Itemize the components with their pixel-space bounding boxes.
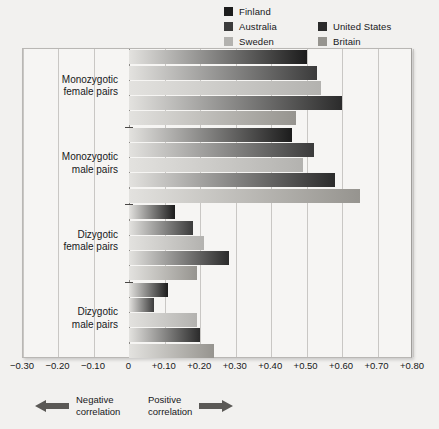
bar-sweden-group-1 [129,81,320,95]
legend-column-2: United States Britain [318,19,391,49]
category-line1: Monozygotic [62,151,118,162]
legend-swatch-australia [224,22,233,31]
category-line2: male pairs [72,319,118,330]
arrow-right-icon [199,400,233,412]
legend-label-sweden: Sweden [239,37,274,47]
legend-item-united-states: United States [318,19,391,34]
arrow-left-icon [35,400,69,412]
bar-britain-group-3 [129,266,196,280]
bar-united-states-group-4 [129,328,200,342]
bar-britain-group-4 [129,344,214,358]
gridline-0.30 [23,49,24,357]
legend-item-sweden: Sweden [224,34,277,49]
positive-correlation-text: Positive correlation [148,394,192,417]
chart-legend: Finland Australia Sweden United States B… [224,4,434,48]
bar-australia-group-1 [129,66,317,80]
x-tick-0: 0 [126,360,131,372]
group-separator-tick-2 [125,204,133,205]
category-line1: Dizygotic [77,229,118,240]
legend-swatch-united-states [318,22,327,31]
legend-label-united-states: United States [333,22,391,32]
negative-correlation-annotation: Negative correlation [35,394,120,417]
bar-finland-group-2 [129,128,292,142]
bar-sweden-group-3 [129,236,203,250]
negative-correlation-line2: correlation [76,406,120,418]
negative-correlation-text: Negative correlation [76,394,120,417]
x-tick-n0_40: +0.40 [258,360,282,372]
bar-united-states-group-2 [129,173,335,187]
bar-finland-group-1 [129,50,306,64]
x-tick-n0_60: +0.60 [329,360,353,372]
bar-finland-group-4 [129,283,168,297]
positive-correlation-line1: Positive [148,394,181,405]
gridline-0.60 [342,49,343,357]
bar-australia-group-4 [129,298,154,312]
chart-root: Finland Australia Sweden United States B… [0,0,439,429]
x-tick-n0_50: +0.50 [294,360,318,372]
legend-item-australia: Australia [224,19,277,34]
category-line2: female pairs [64,86,118,97]
bar-britain-group-1 [129,111,296,125]
group-separator-tick-1 [125,127,133,128]
legend-swatch-britain [318,37,327,46]
x-tick-n0_20: +0.20 [187,360,211,372]
x-tick-n0_30: +0.30 [223,360,247,372]
x-tick-n0_80: +0.80 [400,360,424,372]
category-line1: Dizygotic [77,306,118,317]
bar-australia-group-3 [129,221,193,235]
legend-label-finland: Finland [239,7,271,17]
x-axis-tick-labels: −0.30−0.20−0.100+0.10+0.20+0.30+0.40+0.5… [0,360,439,376]
x-tick-n0_10: +0.10 [152,360,176,372]
bar-sweden-group-4 [129,313,196,327]
legend-swatch-sweden [224,37,233,46]
negative-correlation-line1: Negative [76,394,114,405]
legend-label-britain: Britain [333,37,361,47]
legend-column-1: Finland Australia Sweden [224,4,277,49]
legend-label-australia: Australia [239,22,277,32]
category-label-dizygotic-male-pairs: Dizygoticmale pairs [30,306,118,331]
gridline-0.80 [413,49,414,357]
bar-united-states-group-3 [129,251,228,265]
x-tick-n0_30: −0.30 [10,360,34,372]
x-tick-n0_10: −0.10 [81,360,105,372]
bar-united-states-group-1 [129,96,342,110]
bar-sweden-group-2 [129,158,303,172]
x-tick-n0_20: −0.20 [45,360,69,372]
category-line2: female pairs [64,241,118,252]
bar-britain-group-2 [129,189,359,203]
positive-correlation-annotation: Positive correlation [148,394,233,417]
gridline-0.70 [378,49,379,357]
bar-finland-group-3 [129,205,175,219]
positive-correlation-line2: correlation [148,406,192,418]
group-separator-tick-3 [125,282,133,283]
x-tick-n0_70: +0.70 [365,360,389,372]
legend-item-finland: Finland [224,4,277,19]
category-line1: Monozygotic [62,74,118,85]
legend-item-britain: Britain [318,34,391,49]
category-label-monozygotic-female-pairs: Monozygoticfemale pairs [30,74,118,99]
category-label-dizygotic-female-pairs: Dizygoticfemale pairs [30,229,118,254]
category-line2: male pairs [72,164,118,175]
axis-direction-annotations: Negative correlation Positive correlatio… [0,394,439,428]
legend-swatch-finland [224,7,233,16]
bar-australia-group-2 [129,143,313,157]
category-label-monozygotic-male-pairs: Monozygoticmale pairs [30,151,118,176]
